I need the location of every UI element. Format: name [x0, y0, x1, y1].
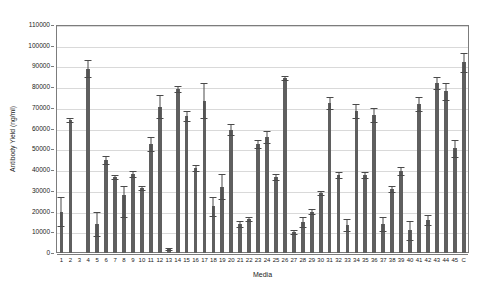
- bar[interactable]: [140, 188, 144, 253]
- y-axis-tick-label: 20000: [32, 208, 50, 215]
- bar-group[interactable]: [173, 25, 182, 253]
- bar-group[interactable]: [57, 25, 66, 253]
- bar-group[interactable]: [155, 25, 164, 253]
- bar[interactable]: [176, 89, 180, 253]
- bar[interactable]: [238, 224, 242, 253]
- bar[interactable]: [113, 177, 117, 253]
- bar[interactable]: [256, 144, 260, 253]
- bar-group[interactable]: [102, 25, 111, 253]
- bar[interactable]: [310, 212, 314, 253]
- x-axis-tick-label: 43: [432, 254, 441, 270]
- bar-group[interactable]: [450, 25, 459, 253]
- bar-group[interactable]: [379, 25, 388, 253]
- bar[interactable]: [453, 148, 457, 253]
- bar[interactable]: [355, 111, 359, 253]
- bar-group[interactable]: [129, 25, 138, 253]
- bar-group[interactable]: [423, 25, 432, 253]
- bar-group[interactable]: [415, 25, 424, 253]
- bar[interactable]: [104, 160, 108, 253]
- y-axis-title: Antibody Yield (ng/ml): [9, 79, 16, 199]
- x-axis-tick-label: 37: [379, 254, 388, 270]
- error-bar-cap-upper: [94, 212, 101, 213]
- bar[interactable]: [462, 62, 466, 253]
- bar[interactable]: [390, 189, 394, 253]
- bar-group[interactable]: [280, 25, 289, 253]
- bar-group[interactable]: [182, 25, 191, 253]
- error-bar-cap-upper: [246, 217, 253, 218]
- bar[interactable]: [274, 177, 278, 253]
- bar-group[interactable]: [120, 25, 129, 253]
- y-axis-tick-label: 40000: [32, 167, 50, 174]
- error-bar: [231, 124, 232, 134]
- bar-group[interactable]: [298, 25, 307, 253]
- x-axis-tick-label: 20: [227, 254, 236, 270]
- bar-group[interactable]: [352, 25, 361, 253]
- bar-group[interactable]: [227, 25, 236, 253]
- bar[interactable]: [417, 104, 421, 253]
- bar-group[interactable]: [218, 25, 227, 253]
- bar-group[interactable]: [137, 25, 146, 253]
- bar-group[interactable]: [343, 25, 352, 253]
- bar-group[interactable]: [200, 25, 209, 253]
- x-axis-tick-label: 41: [415, 254, 424, 270]
- y-axis-tick-label: 10000: [32, 229, 50, 236]
- bar-group[interactable]: [406, 25, 415, 253]
- x-axis-tick-label: 26: [280, 254, 289, 270]
- bar-group[interactable]: [325, 25, 334, 253]
- bar-group[interactable]: [334, 25, 343, 253]
- bar-group[interactable]: [289, 25, 298, 253]
- bar-group[interactable]: [397, 25, 406, 253]
- error-bar-cap-upper: [398, 167, 405, 168]
- bar-group[interactable]: [66, 25, 75, 253]
- error-bar: [436, 77, 437, 89]
- bar-group[interactable]: [245, 25, 254, 253]
- bar[interactable]: [86, 69, 90, 253]
- bar-group[interactable]: [75, 25, 84, 253]
- bar[interactable]: [265, 137, 269, 253]
- bar-group[interactable]: [111, 25, 120, 253]
- bar[interactable]: [444, 91, 448, 253]
- bar-group[interactable]: [146, 25, 155, 253]
- error-bar-cap-lower: [317, 195, 324, 196]
- bar[interactable]: [203, 101, 207, 253]
- bar-group[interactable]: [316, 25, 325, 253]
- bar-group[interactable]: [164, 25, 173, 253]
- error-bar-cap-upper: [281, 76, 288, 77]
- bar-group[interactable]: [370, 25, 379, 253]
- bar-group[interactable]: [84, 25, 93, 253]
- error-bar-cap-upper: [219, 174, 226, 175]
- bar-group[interactable]: [432, 25, 441, 253]
- bar-group[interactable]: [441, 25, 450, 253]
- bar-group[interactable]: [254, 25, 263, 253]
- bar-group[interactable]: [209, 25, 218, 253]
- bar[interactable]: [363, 175, 367, 253]
- bar[interactable]: [185, 116, 189, 253]
- bar-group[interactable]: [93, 25, 102, 253]
- bar-group[interactable]: [272, 25, 281, 253]
- bar-group[interactable]: [307, 25, 316, 253]
- bar-group[interactable]: [459, 25, 468, 253]
- bar[interactable]: [131, 174, 135, 253]
- bar-group[interactable]: [191, 25, 200, 253]
- bar-group[interactable]: [263, 25, 272, 253]
- error-bar-cap-upper: [174, 86, 181, 87]
- bar[interactable]: [194, 168, 198, 253]
- bar[interactable]: [399, 171, 403, 253]
- bar[interactable]: [292, 232, 296, 253]
- bar[interactable]: [229, 130, 233, 253]
- bar-group[interactable]: [388, 25, 397, 253]
- error-bar: [222, 174, 223, 199]
- bar[interactable]: [283, 78, 287, 253]
- x-axis-title: Media: [56, 271, 469, 278]
- bar[interactable]: [69, 120, 73, 253]
- bar[interactable]: [328, 103, 332, 253]
- bar-group[interactable]: [361, 25, 370, 253]
- bar[interactable]: [247, 219, 251, 253]
- bar[interactable]: [149, 144, 153, 253]
- bar[interactable]: [337, 175, 341, 253]
- bar-group[interactable]: [236, 25, 245, 253]
- bar[interactable]: [158, 107, 162, 253]
- bar[interactable]: [435, 83, 439, 253]
- bar[interactable]: [319, 193, 323, 253]
- bar[interactable]: [372, 115, 376, 253]
